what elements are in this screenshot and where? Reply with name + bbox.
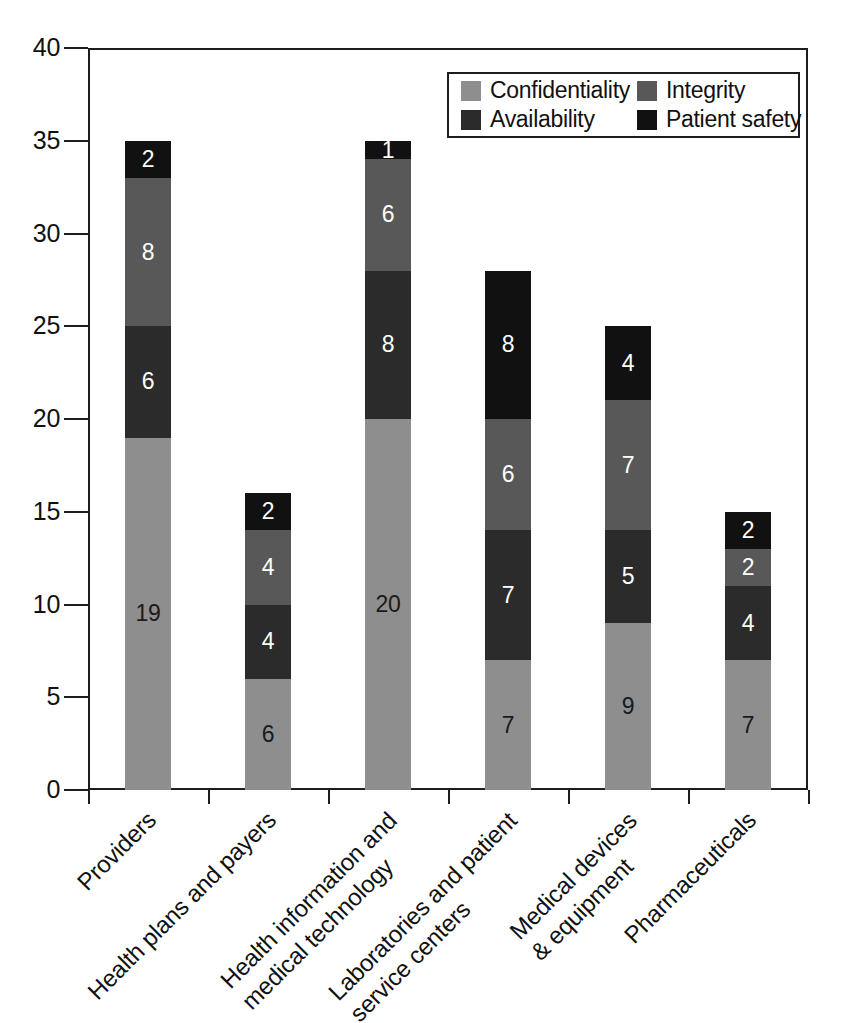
legend-entry-availability: Availability [461, 108, 637, 131]
legend-swatch-patient-safety [637, 110, 657, 130]
legend-label-integrity: Integrity [666, 79, 745, 102]
legend-entry-patient-safety: Patient safety [637, 108, 814, 131]
legend-label-patient-safety: Patient safety [666, 108, 801, 131]
legend-swatch-availability [461, 110, 481, 130]
legend-swatch-integrity [637, 81, 657, 101]
legend-label-confidentiality: Confidentiality [490, 79, 630, 102]
legend-entry-confidentiality: Confidentiality [461, 79, 637, 102]
chart-legend: Confidentiality Integrity Availability P… [447, 72, 800, 138]
x-axis-labels: ProvidersHealth plans and payersHealth i… [0, 0, 851, 1023]
x-axis-label-providers: Providers [72, 806, 162, 896]
stacked-bar-chart: 4035302520151050 28619244616820867747592… [0, 0, 851, 1023]
legend-swatch-confidentiality [461, 81, 481, 101]
legend-label-availability: Availability [490, 108, 595, 131]
legend-entry-integrity: Integrity [637, 79, 814, 102]
